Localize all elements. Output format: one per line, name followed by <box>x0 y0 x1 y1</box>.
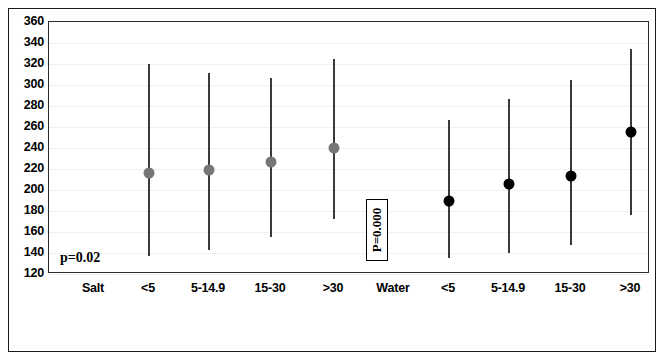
y-axis-tick-360: 360 <box>2 15 44 28</box>
x-axis-label-salt: Salt <box>82 281 104 295</box>
x-axis-label-water_15-30: 15-30 <box>555 281 586 295</box>
x-axis-label-water_5-14.9: 5-14.9 <box>491 281 525 295</box>
salt-p-value-annotation: p=0.02 <box>60 250 100 266</box>
y-axis-tick-200: 200 <box>2 183 44 196</box>
gridlines <box>49 22 648 272</box>
data-marker <box>444 195 455 206</box>
data-marker <box>626 127 637 138</box>
x-axis-label-water_>30: >30 <box>620 281 641 295</box>
x-axis-label-salt_<5: <5 <box>141 281 155 295</box>
gridline <box>49 127 648 128</box>
gridline <box>49 64 648 65</box>
data-marker <box>144 168 155 179</box>
y-axis-tick-180: 180 <box>2 204 44 217</box>
y-axis-tick-160: 160 <box>2 225 44 238</box>
error-bar <box>508 99 510 253</box>
x-axis-label-salt_>30: >30 <box>323 281 344 295</box>
data-marker <box>504 178 515 189</box>
data-marker <box>266 156 277 167</box>
data-marker <box>204 165 215 176</box>
x-axis-label-salt_5-14.9: 5-14.9 <box>191 281 225 295</box>
error-bar <box>333 59 335 220</box>
data-marker <box>329 143 340 154</box>
y-axis-tick-260: 260 <box>2 120 44 133</box>
y-axis-tick-340: 340 <box>2 36 44 49</box>
gridline <box>49 190 648 191</box>
gridline <box>49 232 648 233</box>
y-axis-tick-280: 280 <box>2 99 44 112</box>
y-axis-tick-220: 220 <box>2 162 44 175</box>
y-axis-tick-140: 140 <box>2 246 44 259</box>
plot-area <box>48 21 649 273</box>
water-p-value-annotation-box: P=0.000 <box>366 199 388 261</box>
gridline <box>49 148 648 149</box>
y-axis-tick-120: 120 <box>2 267 44 280</box>
chart-figure: 360340320300280260240220200180160140120 … <box>0 0 665 361</box>
y-axis-tick-labels: 360340320300280260240220200180160140120 <box>0 21 44 273</box>
gridline <box>49 85 648 86</box>
y-axis-tick-240: 240 <box>2 141 44 154</box>
gridline <box>49 106 648 107</box>
error-bar <box>570 80 572 245</box>
x-axis-label-water: Water <box>376 281 409 295</box>
water-p-value-annotation-label: P=0.000 <box>369 208 385 253</box>
error-bar <box>208 73 210 249</box>
y-axis-tick-300: 300 <box>2 78 44 91</box>
x-axis-label-salt_15-30: 15-30 <box>255 281 286 295</box>
error-bar <box>148 64 150 256</box>
gridline <box>49 43 648 44</box>
data-marker <box>566 171 577 182</box>
error-bar <box>448 120 450 259</box>
y-axis-tick-320: 320 <box>2 57 44 70</box>
gridline <box>49 211 648 212</box>
gridline <box>49 253 648 254</box>
x-axis-label-water_<5: <5 <box>441 281 455 295</box>
gridline <box>49 169 648 170</box>
x-axis-tick-labels: Salt<55-14.915-30>30Water<55-14.915-30>3… <box>48 281 649 301</box>
